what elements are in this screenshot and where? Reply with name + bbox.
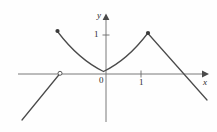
y-axis (103, 14, 110, 123)
y-tick-label-1: 1 (94, 30, 99, 39)
x-axis-label: x (203, 78, 207, 87)
y-axis-arrowhead (103, 14, 110, 21)
middle-parabolic-branch (58, 32, 148, 72)
x-tick-label-1: 1 (139, 78, 144, 87)
left-linear-branch (22, 74, 60, 121)
function-plot (0, 0, 217, 132)
graph-figure: y x 0 1 1 (0, 0, 217, 132)
right-linear-branch (148, 34, 207, 101)
origin-label: 0 (99, 76, 104, 85)
x-axis (18, 71, 209, 78)
open-point-discontinuity (58, 71, 62, 75)
filled-point-peak (146, 31, 150, 35)
filled-point-left-top (55, 29, 59, 33)
y-axis-label: y (97, 11, 101, 20)
